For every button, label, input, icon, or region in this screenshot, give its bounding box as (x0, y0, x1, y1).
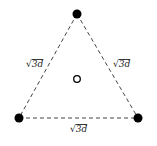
label-bottom: √3d (70, 124, 87, 134)
vertex-top (73, 10, 82, 19)
svg-text:√3d: √3d (26, 59, 43, 69)
vertex-bottom-right (134, 114, 143, 123)
svg-text:√3d: √3d (70, 124, 87, 134)
label-left: √3d (26, 59, 43, 69)
center-point (74, 76, 81, 83)
label-right: √3d (113, 59, 130, 69)
triangle-diagram: √3d √3d √3d (0, 0, 157, 146)
svg-text:√3d: √3d (113, 59, 130, 69)
vertex-bottom-left (15, 114, 24, 123)
